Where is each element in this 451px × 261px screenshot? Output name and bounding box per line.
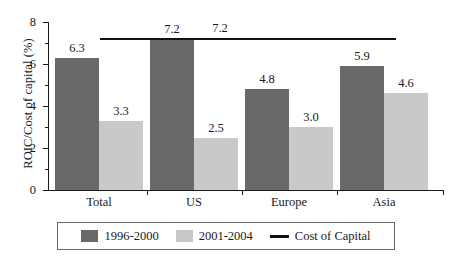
bar-us-2001-2004 <box>194 138 238 191</box>
bar-value-label: 3.3 <box>113 105 129 118</box>
cost-of-capital-value-label: 7.2 <box>212 22 228 35</box>
bar-value-label: 3.0 <box>303 111 319 124</box>
bar-asia-1996-2000 <box>340 66 384 190</box>
legend-entry: Cost of Capital <box>270 229 371 244</box>
y-tick-label: 2 <box>30 142 36 155</box>
bar-value-label: 4.8 <box>259 73 275 86</box>
category-label-us: US <box>186 196 202 209</box>
bar-total-2001-2004 <box>99 121 143 190</box>
bar-europe-1996-2000 <box>245 89 289 190</box>
bar-value-label: 2.5 <box>208 122 224 135</box>
bar-asia-2001-2004 <box>384 93 428 190</box>
plot-area: 02468 6.33.37.22.54.83.05.94.6 7.2 Total… <box>48 22 444 190</box>
legend-entry: 1996-2000 <box>81 229 158 244</box>
x-tick <box>337 190 338 195</box>
legend-label: 2001-2004 <box>199 229 253 244</box>
y-tick-8: 8 <box>43 22 48 23</box>
legend-label: 1996-2000 <box>104 229 158 244</box>
legend-entry: 2001-2004 <box>176 229 253 244</box>
bar-us-1996-2000 <box>150 39 194 190</box>
chart-figure: ROIC/Cost of capital (%) 02468 6.33.37.2… <box>0 0 451 261</box>
legend-swatch-icon <box>176 230 193 242</box>
y-minor-tick <box>45 127 48 128</box>
bar-value-label: 5.9 <box>354 50 370 63</box>
y-tick-0: 0 <box>43 190 48 191</box>
y-tick-6: 6 <box>43 64 48 65</box>
y-axis-line <box>48 22 49 191</box>
y-tick-label: 8 <box>30 16 36 29</box>
chart-legend: 1996-20002001-2004Cost of Capital <box>57 222 395 250</box>
y-tick-4: 4 <box>43 106 48 107</box>
x-tick <box>242 190 243 195</box>
cost-of-capital-line <box>100 38 396 40</box>
bar-value-label: 4.6 <box>398 77 414 90</box>
y-tick-2: 2 <box>43 148 48 149</box>
category-label-europe: Europe <box>271 196 307 209</box>
legend-line-marker-icon <box>270 235 289 238</box>
x-tick <box>147 190 148 195</box>
category-label-asia: Asia <box>373 196 396 209</box>
y-tick-label: 6 <box>30 58 36 71</box>
y-minor-tick <box>45 85 48 86</box>
x-tick-end <box>443 190 444 195</box>
y-minor-tick <box>45 43 48 44</box>
bar-value-label: 6.3 <box>69 42 85 55</box>
category-label-total: Total <box>86 196 112 209</box>
bar-europe-2001-2004 <box>289 127 333 190</box>
x-axis-line <box>48 190 444 191</box>
bar-total-1996-2000 <box>55 58 99 190</box>
y-tick-label: 4 <box>30 100 36 113</box>
y-minor-tick <box>45 169 48 170</box>
bar-value-label: 7.2 <box>164 23 180 36</box>
legend-label: Cost of Capital <box>295 229 371 244</box>
y-tick-label: 0 <box>30 184 36 197</box>
legend-swatch-icon <box>81 230 98 242</box>
